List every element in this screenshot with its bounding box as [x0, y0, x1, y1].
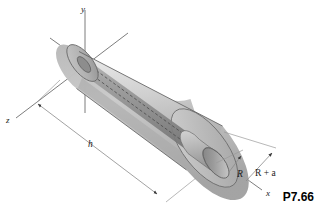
x-axis-label: x — [265, 188, 270, 198]
figure-number-text: P7.66 — [283, 190, 314, 204]
technical-figure-svg: h R R + a y z x — [0, 0, 318, 212]
h-label: h — [88, 139, 93, 149]
R-label: R — [236, 169, 243, 179]
figure-container: h R R + a y z x P7.66 — [0, 0, 318, 212]
truncated-cone-solid — [56, 40, 250, 201]
z-axis-label: z — [5, 115, 10, 125]
h-extension-right — [166, 178, 196, 202]
h-extension-left — [36, 80, 60, 103]
y-axis-label: y — [80, 4, 85, 14]
R-plus-a-label: R + a — [255, 168, 276, 178]
